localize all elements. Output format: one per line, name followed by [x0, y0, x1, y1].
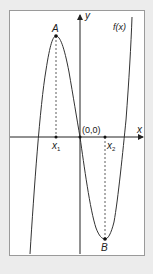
point-b-dot — [103, 237, 107, 241]
x2-tick-dot — [104, 136, 107, 139]
origin-label: (0,0) — [82, 126, 101, 135]
x1-sub: 1 — [57, 146, 60, 152]
origin-dot — [79, 136, 82, 139]
function-label: f(x) — [113, 23, 126, 32]
x-axis-label: x — [137, 125, 142, 135]
x2-label: x2 — [107, 141, 115, 152]
point-a-dot — [54, 34, 58, 38]
x1-label: x1 — [52, 141, 60, 152]
point-a-label: A — [52, 24, 59, 34]
function-curve — [30, 17, 132, 254]
function-graph — [0, 0, 153, 274]
x2-sub: 2 — [112, 146, 115, 152]
point-b-label: B — [101, 243, 108, 253]
y-axis-label: y — [85, 11, 90, 21]
x1-tick-dot — [55, 136, 58, 139]
